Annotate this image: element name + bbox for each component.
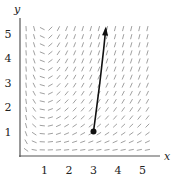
slope-segment bbox=[34, 34, 35, 39]
slope-segment bbox=[64, 116, 68, 119]
x-tick-label: 5 bbox=[139, 164, 146, 177]
slope-segment bbox=[106, 67, 108, 72]
slope-segment bbox=[145, 141, 150, 143]
slope-segment bbox=[89, 99, 92, 103]
slope-segment bbox=[40, 109, 45, 110]
slope-segment bbox=[26, 115, 27, 120]
slope-segment bbox=[80, 132, 85, 135]
slope-segment bbox=[57, 59, 60, 63]
slope-segment bbox=[48, 133, 53, 134]
slope-segment bbox=[34, 26, 35, 31]
slope-segment bbox=[105, 132, 109, 135]
slope-segment bbox=[114, 58, 116, 63]
slope-segment bbox=[98, 26, 99, 31]
y-tick-label: 5 bbox=[5, 28, 12, 41]
slope-segment bbox=[26, 75, 27, 80]
slope-segment bbox=[25, 140, 28, 145]
slope-segment bbox=[40, 52, 45, 54]
slope-segment bbox=[129, 149, 134, 150]
slope-segment bbox=[64, 124, 68, 127]
slope-segment bbox=[146, 91, 148, 96]
slope-field-chart: 12345 12345 x y bbox=[0, 0, 174, 178]
slope-segment bbox=[72, 124, 76, 127]
slope-segment bbox=[114, 34, 115, 39]
slope-segment bbox=[121, 149, 126, 150]
initial-point bbox=[91, 129, 97, 135]
x-axis-label: x bbox=[164, 150, 171, 163]
slope-segment bbox=[90, 34, 92, 39]
slope-segment bbox=[106, 58, 108, 63]
slope-segment bbox=[57, 83, 61, 87]
slope-segment bbox=[73, 91, 76, 95]
slope-segment bbox=[33, 99, 36, 103]
slope-segment bbox=[88, 141, 93, 143]
slope-segment bbox=[131, 42, 132, 47]
slope-segment bbox=[82, 42, 84, 47]
slope-segment bbox=[138, 67, 140, 72]
slope-segment bbox=[129, 141, 134, 143]
slope-segment bbox=[131, 34, 132, 39]
slope-segment bbox=[73, 67, 75, 72]
slope-segment bbox=[48, 92, 53, 94]
slope-segment bbox=[66, 34, 68, 39]
slope-segment bbox=[146, 115, 149, 119]
y-tick-label: 2 bbox=[5, 101, 12, 114]
slope-segment bbox=[74, 50, 76, 55]
slope-segment bbox=[146, 75, 148, 80]
slope-segment bbox=[65, 91, 68, 95]
slope-segment bbox=[122, 99, 125, 103]
slope-segment bbox=[97, 107, 100, 111]
slope-segment bbox=[113, 141, 118, 143]
slope-segment bbox=[82, 34, 84, 39]
slope-segment bbox=[26, 83, 27, 88]
slope-segment bbox=[90, 50, 92, 55]
slope-segment bbox=[48, 59, 52, 62]
x-tick-label: 1 bbox=[41, 164, 48, 177]
slope-segment bbox=[56, 108, 60, 111]
slope-segment bbox=[130, 58, 132, 63]
slope-segment bbox=[89, 116, 93, 120]
slope-segment bbox=[40, 101, 45, 102]
slope-segment bbox=[81, 83, 84, 88]
slope-segment bbox=[90, 67, 92, 72]
slope-segment bbox=[98, 34, 99, 39]
slope-segment bbox=[73, 99, 76, 103]
slope-segment bbox=[131, 26, 132, 31]
slope-segment bbox=[146, 83, 148, 88]
slope-segment bbox=[146, 99, 149, 104]
slope-segment bbox=[48, 35, 52, 39]
slope-segment bbox=[40, 27, 45, 29]
slope-segment bbox=[106, 50, 108, 55]
slope-segment bbox=[138, 116, 141, 120]
slope-segment bbox=[57, 75, 60, 79]
slope-segment bbox=[72, 141, 77, 143]
slope-segment bbox=[48, 51, 52, 54]
slope-segment bbox=[56, 100, 60, 103]
slope-segment bbox=[33, 107, 36, 111]
solution-curve bbox=[94, 29, 106, 132]
slope-segment bbox=[73, 75, 76, 80]
slope-segment bbox=[122, 34, 123, 39]
slope-segment bbox=[56, 141, 61, 142]
y-tick-label: 4 bbox=[5, 52, 12, 65]
slope-segment bbox=[89, 91, 92, 95]
y-tick-label: 3 bbox=[5, 77, 12, 90]
slope-segment bbox=[90, 26, 91, 31]
slope-segment bbox=[98, 42, 100, 47]
slope-segment bbox=[137, 124, 141, 128]
y-axis-label: y bbox=[13, 3, 21, 16]
slope-segment bbox=[32, 149, 37, 150]
slope-segment bbox=[88, 149, 93, 150]
slope-segment bbox=[40, 93, 45, 94]
slope-segment bbox=[106, 83, 108, 88]
slope-segment bbox=[81, 107, 84, 111]
slope-segment bbox=[121, 116, 124, 120]
slope-segment bbox=[90, 83, 92, 88]
slope-segment bbox=[33, 67, 35, 72]
slope-segment bbox=[114, 42, 115, 47]
slope-segment bbox=[98, 59, 100, 64]
slope-segment bbox=[96, 149, 101, 150]
slope-segment bbox=[147, 67, 149, 72]
slope-segment bbox=[113, 116, 116, 120]
slope-segment bbox=[130, 91, 132, 96]
